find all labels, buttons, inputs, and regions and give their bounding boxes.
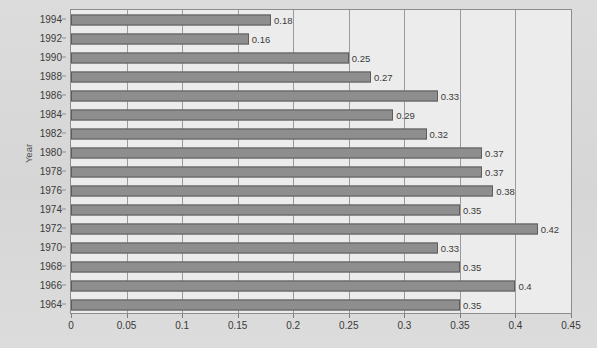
y-tick-label: 1994	[40, 14, 62, 25]
bar-row: 0.42	[71, 219, 571, 238]
x-tick-mark	[182, 314, 183, 318]
bar	[71, 15, 271, 26]
y-tick-mark	[62, 19, 66, 20]
y-tick-mark	[62, 284, 66, 285]
bar	[71, 185, 493, 196]
bar-value-label: 0.27	[371, 72, 393, 83]
y-tick-label: 1988	[40, 71, 62, 82]
x-tick-label: 0.15	[228, 320, 247, 331]
y-tick-label: 1986	[40, 90, 62, 101]
x-tick-mark	[127, 314, 128, 318]
bar	[71, 299, 460, 310]
y-tick-mark	[62, 76, 66, 77]
bar-row: 0.38	[71, 181, 571, 200]
y-tick-mark	[62, 57, 66, 58]
x-tick-mark	[515, 314, 516, 318]
x-tick-mark	[238, 314, 239, 318]
bar-row: 0.27	[71, 68, 571, 87]
x-tick-mark	[460, 314, 461, 318]
y-tick-label: 1978	[40, 165, 62, 176]
y-tick-label: 1964	[40, 298, 62, 309]
bar	[71, 72, 371, 83]
y-axis-tick-labels: 1994199219901988198619841982198019781976…	[0, 9, 66, 314]
y-tick-mark	[62, 152, 66, 153]
bar	[71, 91, 438, 102]
bar-value-label: 0.4	[515, 280, 531, 291]
bar	[71, 148, 482, 159]
y-tick-mark	[62, 170, 66, 171]
y-tick-label: 1992	[40, 33, 62, 44]
y-tick-mark	[62, 303, 66, 304]
bar-value-label: 0.35	[460, 261, 482, 272]
x-tick-label: 0.1	[175, 320, 189, 331]
bar-row: 0.37	[71, 163, 571, 182]
bar-row: 0.29	[71, 106, 571, 125]
y-tick-label: 1990	[40, 52, 62, 63]
y-tick-label: 1980	[40, 147, 62, 158]
bar-value-label: 0.35	[460, 204, 482, 215]
bar-value-label: 0.18	[271, 15, 293, 26]
bar	[71, 34, 249, 45]
x-tick-label: 0	[68, 320, 74, 331]
bar	[71, 223, 538, 234]
bar-series: 0.180.160.250.270.330.290.320.370.370.38…	[71, 10, 571, 313]
x-tick-mark	[71, 314, 72, 318]
y-tick-label: 1968	[40, 260, 62, 271]
bar-value-label: 0.42	[538, 223, 560, 234]
bar	[71, 242, 438, 253]
x-tick-mark	[571, 314, 572, 318]
x-tick-label: 0.25	[339, 320, 358, 331]
y-tick-label: 1972	[40, 222, 62, 233]
x-tick-label: 0.2	[286, 320, 300, 331]
y-tick-label: 1970	[40, 241, 62, 252]
bar-value-label: 0.29	[393, 110, 415, 121]
y-tick-mark	[62, 227, 66, 228]
x-tick-label: 0.35	[450, 320, 469, 331]
x-tick-label: 0.4	[508, 320, 522, 331]
y-tick-mark	[62, 208, 66, 209]
bar	[71, 280, 515, 291]
y-tick-label: 1976	[40, 184, 62, 195]
bar	[71, 110, 393, 121]
y-tick-mark	[62, 95, 66, 96]
y-tick-mark	[62, 114, 66, 115]
y-tick-label: 1966	[40, 279, 62, 290]
bar	[71, 129, 427, 140]
bar-value-label: 0.37	[482, 148, 504, 159]
bar-row: 0.16	[71, 30, 571, 49]
y-tick-label: 1984	[40, 109, 62, 120]
y-tick-mark	[62, 38, 66, 39]
chart-title	[0, 0, 597, 6]
bar-value-label: 0.35	[460, 299, 482, 310]
bar-row: 0.33	[71, 238, 571, 257]
bar-value-label: 0.25	[349, 53, 371, 64]
y-tick-mark	[62, 133, 66, 134]
x-tick-mark	[404, 314, 405, 318]
bar-row: 0.37	[71, 144, 571, 163]
bar-value-label: 0.33	[438, 91, 460, 102]
bar-row: 0.4	[71, 276, 571, 295]
x-axis: 00.050.10.150.20.250.30.350.40.45	[70, 314, 572, 344]
bar-value-label: 0.33	[438, 242, 460, 253]
y-tick-mark	[62, 189, 66, 190]
y-tick-mark	[62, 265, 66, 266]
bar	[71, 166, 482, 177]
bar-chart: Year 19941992199019881986198419821980197…	[0, 0, 597, 348]
bar-row: 0.35	[71, 295, 571, 314]
bar-row: 0.25	[71, 49, 571, 68]
bar-row: 0.18	[71, 11, 571, 30]
bar	[71, 261, 460, 272]
bar-row: 0.32	[71, 125, 571, 144]
x-tick-label: 0.05	[117, 320, 136, 331]
plot-area: 0.180.160.250.270.330.290.320.370.370.38…	[70, 9, 572, 314]
bar-row: 0.35	[71, 200, 571, 219]
bar-row: 0.33	[71, 87, 571, 106]
bar	[71, 53, 349, 64]
x-tick-label: 0.45	[561, 320, 580, 331]
x-tick-mark	[349, 314, 350, 318]
x-tick-label: 0.3	[397, 320, 411, 331]
y-tick-label: 1982	[40, 128, 62, 139]
bar-row: 0.35	[71, 257, 571, 276]
x-tick-mark	[293, 314, 294, 318]
bar-value-label: 0.32	[427, 129, 449, 140]
